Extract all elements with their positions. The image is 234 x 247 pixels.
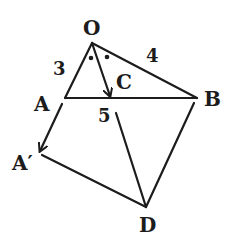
label-B: B [204, 87, 221, 111]
label-O: O [83, 16, 100, 40]
label-C: C [116, 70, 132, 94]
segment-5-D [116, 113, 146, 207]
angle-mark-dot-right [105, 55, 110, 60]
label-D: D [139, 213, 156, 237]
angle-mark-dot-left [89, 56, 94, 61]
label-A: A [33, 92, 50, 116]
length-label-AB: 5 [98, 105, 111, 126]
geometry-diagram: O A B C A′ D 3 4 5 [0, 0, 234, 247]
segment-A-prime-D [42, 155, 146, 207]
segment-BD [146, 103, 194, 207]
label-A-prime: A′ [11, 151, 33, 175]
segment-OA [65, 43, 92, 98]
length-label-OB: 4 [146, 45, 159, 66]
length-label-OA: 3 [53, 58, 66, 79]
